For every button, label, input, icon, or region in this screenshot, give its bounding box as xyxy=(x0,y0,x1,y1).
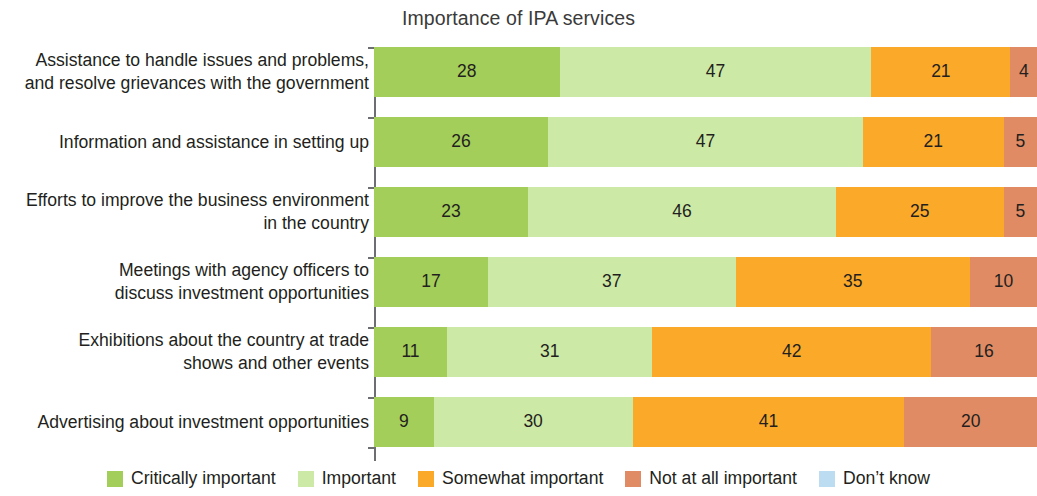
bar-segment-value: 17 xyxy=(421,273,440,291)
legend-swatch-icon xyxy=(625,471,641,487)
category-label-line: Assistance to handle issues and problems… xyxy=(4,49,369,72)
category-label-line: Exhibitions about the country at trade xyxy=(4,329,369,352)
bar-segment: 5 xyxy=(1004,187,1037,237)
category-label-line: shows and other events xyxy=(4,352,369,375)
bar-segment: 30 xyxy=(434,397,633,447)
bar-segment-value: 47 xyxy=(706,63,725,81)
bar-segment-value: 35 xyxy=(843,273,862,291)
legend-label: Somewhat important xyxy=(442,470,603,488)
legend-swatch-icon xyxy=(298,471,314,487)
category-label: Information and assistance in setting up xyxy=(4,131,369,154)
legend-label: Critically important xyxy=(131,470,276,488)
category-label-line: in the country xyxy=(4,212,369,235)
bar-segment-value: 11 xyxy=(401,343,419,361)
bar-segment-value: 46 xyxy=(672,203,691,221)
category-label: Advertising about investment opportuniti… xyxy=(4,411,369,434)
bar-segment-value: 16 xyxy=(974,343,993,361)
bar-segment: 46 xyxy=(528,187,836,237)
bar-segment-value: 20 xyxy=(961,413,980,431)
bar-segment: 10 xyxy=(970,257,1037,307)
bar-segment: 23 xyxy=(374,187,528,237)
legend-item[interactable]: Not at all important xyxy=(625,470,797,488)
bar-segment-value: 21 xyxy=(923,133,942,151)
bar-segment-value: 42 xyxy=(782,343,801,361)
bar-segment-value: 31 xyxy=(540,343,559,361)
bar-segment-value: 41 xyxy=(759,413,778,431)
bar-segment: 35 xyxy=(736,257,970,307)
bar-segment: 42 xyxy=(652,327,930,377)
category-label: Exhibitions about the country at tradesh… xyxy=(4,329,369,375)
category-label-line: Advertising about investment opportuniti… xyxy=(4,411,369,434)
bar-segment: 11 xyxy=(374,327,447,377)
bar-segment-value: 5 xyxy=(1015,203,1025,221)
bar-segment-value: 25 xyxy=(910,203,929,221)
plot-area: 2847214264721523462551737351011314216930… xyxy=(374,47,1037,461)
bar-row: 11314216 xyxy=(374,327,1037,377)
bar-row: 9304120 xyxy=(374,397,1037,447)
bar-segment: 5 xyxy=(1004,117,1037,167)
legend-item[interactable]: Critically important xyxy=(107,470,276,488)
bar-segment: 4 xyxy=(1010,47,1037,97)
bar-segment-value: 30 xyxy=(523,413,542,431)
bar-segment-value: 5 xyxy=(1015,133,1025,151)
category-label: Efforts to improve the business environm… xyxy=(4,189,369,235)
bar-segment-value: 47 xyxy=(696,133,715,151)
category-label-line: Efforts to improve the business environm… xyxy=(4,189,369,212)
bar-segment: 47 xyxy=(560,47,872,97)
bar-row: 2847214 xyxy=(374,47,1037,97)
bar-segment-value: 23 xyxy=(441,203,460,221)
legend-swatch-icon xyxy=(819,471,835,487)
bar-segment: 37 xyxy=(488,257,736,307)
bar-row: 2647215 xyxy=(374,117,1037,167)
chart-legend: Critically importantImportantSomewhat im… xyxy=(0,470,1037,488)
legend-item[interactable]: Somewhat important xyxy=(418,470,603,488)
bar-segment: 20 xyxy=(904,397,1037,447)
bar-row: 2346255 xyxy=(374,187,1037,237)
chart-container: Importance of IPA services Assistance to… xyxy=(0,0,1037,496)
legend-item[interactable]: Important xyxy=(298,470,396,488)
chart-title: Importance of IPA services xyxy=(0,7,1037,30)
legend-swatch-icon xyxy=(107,471,123,487)
bar-segment: 28 xyxy=(374,47,560,97)
bar-segment-value: 28 xyxy=(457,63,476,81)
category-label-line: and resolve grievances with the governme… xyxy=(4,72,369,95)
bar-segment: 21 xyxy=(863,117,1004,167)
bar-segment-value: 4 xyxy=(1019,63,1029,81)
category-label-line: Meetings with agency officers to xyxy=(4,259,369,282)
bar-segment: 41 xyxy=(633,397,905,447)
bar-segment-value: 37 xyxy=(602,273,621,291)
bar-segment-value: 10 xyxy=(994,273,1013,291)
bar-segment: 21 xyxy=(871,47,1010,97)
bar-segment: 9 xyxy=(374,397,434,447)
bar-row: 17373510 xyxy=(374,257,1037,307)
category-label: Meetings with agency officers todiscuss … xyxy=(4,259,369,305)
bar-segment: 26 xyxy=(374,117,548,167)
legend-swatch-icon xyxy=(418,471,434,487)
bar-segment: 16 xyxy=(931,327,1037,377)
legend-label: Important xyxy=(322,470,396,488)
legend-item[interactable]: Don’t know xyxy=(819,470,930,488)
category-label: Assistance to handle issues and problems… xyxy=(4,49,369,95)
category-label-line: Information and assistance in setting up xyxy=(4,131,369,154)
legend-label: Don’t know xyxy=(843,470,930,488)
category-label-line: discuss investment opportunities xyxy=(4,282,369,305)
bar-segment: 31 xyxy=(447,327,653,377)
legend-label: Not at all important xyxy=(649,470,797,488)
bar-segment-value: 26 xyxy=(451,133,470,151)
bar-segment: 17 xyxy=(374,257,488,307)
bar-segment-value: 21 xyxy=(931,63,950,81)
bar-segment: 25 xyxy=(836,187,1003,237)
bar-segment-value: 9 xyxy=(399,413,409,431)
bar-segment: 47 xyxy=(548,117,863,167)
